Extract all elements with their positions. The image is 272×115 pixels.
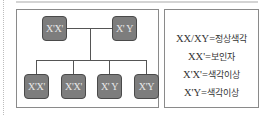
- descent-line: [90, 28, 91, 60]
- legend-panel: XX/XY=정상색각 XX'=보인자 X'X'=색각이상 X'Y=색각이상: [164, 9, 259, 108]
- genotype-label: X' Y: [116, 23, 133, 34]
- child-box-2: X'X': [61, 74, 86, 99]
- genotype-label: X'Y: [139, 81, 154, 92]
- top-rule: [16, 1, 258, 3]
- child-box-3: X' Y: [97, 74, 122, 99]
- genotype-label: X' Y: [101, 81, 118, 92]
- sibship-line: [36, 60, 146, 61]
- parent-father-box: X' Y: [112, 16, 137, 41]
- legend-item: X'Y=색각이상: [165, 86, 258, 99]
- legend-item: X'X'=색각이상: [165, 68, 258, 81]
- parent-mother-box: X'X': [42, 16, 67, 41]
- legend-item: XX/XY=정상색각: [165, 32, 258, 45]
- genotype-label: X'X': [65, 81, 82, 92]
- child-drop-line: [146, 60, 147, 74]
- margin-dotted-rule: [3, 0, 4, 115]
- child-box-1: X'X': [24, 74, 49, 99]
- child-box-4: X'Y: [134, 74, 159, 99]
- child-drop-line: [109, 60, 110, 74]
- pedigree-panel: X'X' X' Y X'X' X'X' X' Y X'Y: [16, 9, 159, 108]
- genotype-label: X'X': [46, 23, 63, 34]
- genotype-label: X'X': [28, 81, 45, 92]
- child-drop-line: [73, 60, 74, 74]
- child-drop-line: [36, 60, 37, 74]
- legend-item: XX'=보인자: [165, 50, 258, 63]
